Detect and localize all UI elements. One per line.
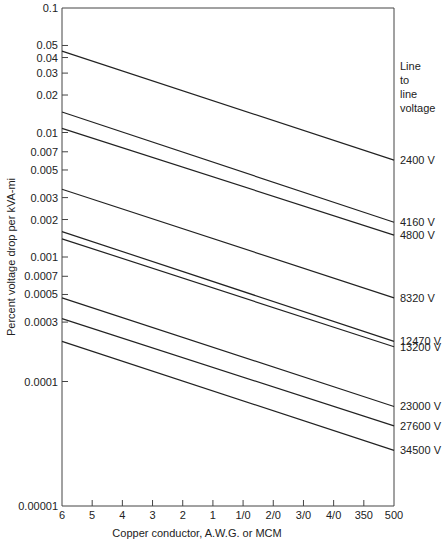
plot-frame (62, 8, 394, 506)
x-axis: 6543211/02/03/04/0350500 (59, 500, 403, 521)
y-tick-label: 0.00001 (18, 500, 58, 512)
x-tick-label: 3/0 (296, 509, 311, 521)
series-label: 4800 V (400, 229, 436, 241)
series-label: 23000 V (400, 400, 442, 412)
y-tick-label: 0.05 (37, 39, 58, 51)
y-tick-label: 0.03 (37, 67, 58, 79)
x-tick-label: 4 (119, 509, 125, 521)
x-tick-label: 5 (89, 509, 95, 521)
y-tick-label: 0.01 (37, 127, 58, 139)
y-tick-label: 0.04 (37, 52, 58, 64)
y-tick-label: 0.0003 (24, 316, 58, 328)
y-tick-label: 0.02 (37, 89, 58, 101)
legend-title-line: to (400, 74, 409, 86)
legend-title-line: voltage (400, 102, 435, 114)
y-tick-label: 0.1 (43, 2, 58, 14)
series-label: 34500 V (400, 444, 442, 456)
series-label: 27600 V (400, 420, 442, 432)
x-tick-label: 500 (385, 509, 403, 521)
series-label: 13200 V (400, 341, 442, 353)
y-tick-label: 0.003 (30, 192, 58, 204)
x-tick-label: 2/0 (266, 509, 281, 521)
x-tick-label: 6 (59, 509, 65, 521)
x-tick-label: 350 (355, 509, 373, 521)
y-tick-label: 0.005 (30, 164, 58, 176)
x-tick-label: 3 (149, 509, 155, 521)
series-line (62, 232, 394, 342)
series-label: 8320 V (400, 292, 436, 304)
y-tick-label: 0.007 (30, 146, 58, 158)
y-axis-title: Percent voltage drop per kVA-mi (5, 178, 17, 336)
y-tick-label: 0.0005 (24, 288, 58, 300)
x-tick-label: 4/0 (326, 509, 341, 521)
series-line (62, 341, 394, 450)
x-axis-title: Copper conductor, A.W.G. or MCM (112, 527, 281, 539)
x-tick-label: 1 (210, 509, 216, 521)
series-lines (62, 51, 394, 450)
y-tick-label: 0.002 (30, 214, 58, 226)
series-label: 4160 V (400, 216, 436, 228)
x-tick-label: 2 (180, 509, 186, 521)
y-axis: 0.10.050.040.030.020.010.0070.0050.0030.… (18, 2, 68, 512)
x-tick-label: 1/0 (235, 509, 250, 521)
y-tick-label: 0.001 (30, 251, 58, 263)
y-tick-label: 0.0007 (24, 270, 58, 282)
y-tick-label: 0.0001 (24, 376, 58, 388)
series-label: 2400 V (400, 154, 436, 166)
legend-title-line: line (400, 88, 417, 100)
legend-title: Linetolinevoltage (400, 60, 435, 114)
series-line (62, 319, 394, 426)
series-line (62, 298, 394, 407)
series-line (62, 239, 394, 347)
series-labels: 2400 V4160 V4800 V8320 V12470 V13200 V23… (400, 154, 442, 456)
legend-title-line: Line (400, 60, 421, 72)
voltage-drop-chart: 0.10.050.040.030.020.010.0070.0050.0030.… (0, 0, 448, 550)
